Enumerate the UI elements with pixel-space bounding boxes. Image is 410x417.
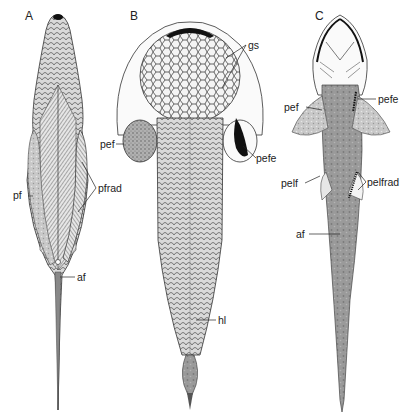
- pectoral-fin-b: [123, 120, 157, 162]
- panel-c: C pef pefe pelf pelfrad af: [281, 9, 399, 412]
- label-pf: pf: [13, 189, 22, 201]
- panel-label-b: B: [130, 9, 138, 23]
- label-pef-b: pef: [100, 138, 115, 150]
- jaws-c: [313, 15, 367, 95]
- label-pelfrad: pelfrad: [367, 176, 399, 188]
- panel-label-c: C: [315, 9, 324, 23]
- snout-a: [53, 14, 63, 20]
- body-c: [322, 85, 362, 412]
- tail-a: [55, 272, 61, 410]
- fossil-fish-figure: A pf pfrad af B: [0, 0, 410, 417]
- panel-b: B gs pef pefe hl: [100, 9, 277, 410]
- label-af-c: af: [296, 228, 305, 240]
- hl-structure-b: [182, 355, 197, 395]
- label-pelf: pelf: [281, 177, 298, 189]
- panel-a: A pf pfrad af: [13, 9, 122, 410]
- label-gs: gs: [248, 39, 259, 51]
- label-pfrad: pfrad: [98, 182, 122, 194]
- label-pefe-c: pefe: [378, 93, 399, 105]
- label-af-a: af: [77, 271, 86, 283]
- label-pef-c: pef: [284, 101, 299, 113]
- panel-label-a: A: [25, 9, 33, 23]
- label-pefe-b: pefe: [256, 152, 277, 164]
- label-hl: hl: [218, 314, 226, 326]
- gill-plates-b: [140, 29, 240, 123]
